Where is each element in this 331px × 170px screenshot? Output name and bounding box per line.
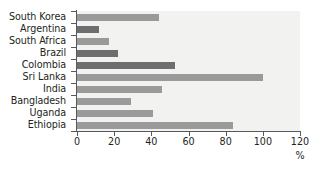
y-axis-tick-label: South Africa [0, 35, 70, 47]
x-axis-tick-label: 40 [145, 137, 157, 147]
bar-chart: South Korea Argentina South Africa Brazi… [0, 0, 331, 170]
x-axis-unit-label: % [295, 151, 304, 161]
x-axis-tick-label: 100 [254, 137, 272, 147]
bar [77, 62, 175, 69]
y-axis-tick [71, 23, 76, 35]
y-axis-tick-label: Brazil [0, 47, 70, 59]
bar-row [77, 35, 300, 47]
bar-series [77, 11, 300, 131]
y-axis-tick-label: Bangladesh [0, 95, 70, 107]
y-axis-tick [71, 11, 76, 23]
y-axis-tick [71, 83, 76, 95]
y-axis-tick [71, 119, 76, 131]
y-axis-line [76, 10, 77, 132]
y-axis-category-labels: South Korea Argentina South Africa Brazi… [0, 11, 70, 131]
bar-row [77, 95, 300, 107]
y-axis-tick-label: Colombia [0, 59, 70, 71]
y-axis-tick [71, 35, 76, 47]
bar [77, 26, 99, 33]
x-axis-tick-label: 20 [108, 137, 120, 147]
x-axis-tick-label: 120 [291, 137, 309, 147]
bar [77, 86, 162, 93]
bar-row [77, 107, 300, 119]
y-axis-tick-label: India [0, 83, 70, 95]
y-axis-tick [71, 95, 76, 107]
y-axis-tick [71, 107, 76, 119]
bar [77, 50, 118, 57]
plot-area [77, 11, 300, 131]
y-axis-tick [71, 71, 76, 83]
bar-row [77, 71, 300, 83]
y-axis-tick [71, 131, 76, 132]
bar [77, 98, 131, 105]
bar [77, 38, 109, 45]
bar-row [77, 59, 300, 71]
bar-row [77, 47, 300, 59]
bar-row [77, 23, 300, 35]
y-axis-tick-label: South Korea [0, 11, 70, 23]
bar-row [77, 83, 300, 95]
bar [77, 14, 159, 21]
bar [77, 122, 233, 129]
y-axis-tick-label: Ethiopia [0, 119, 70, 131]
bar [77, 74, 263, 81]
y-axis-ticks [71, 11, 76, 131]
y-axis-tick [71, 47, 76, 59]
y-axis-tick-label: Uganda [0, 107, 70, 119]
y-axis-tick-label: Sri Lanka [0, 71, 70, 83]
bar [77, 110, 153, 117]
x-axis-tick-label: 80 [220, 137, 232, 147]
bar-row [77, 11, 300, 23]
bar-row [77, 119, 300, 131]
x-axis-tick-label: 0 [74, 137, 80, 147]
x-axis-tick-label: 60 [182, 137, 194, 147]
y-axis-tick [71, 59, 76, 71]
y-axis-tick-label: Argentina [0, 23, 70, 35]
